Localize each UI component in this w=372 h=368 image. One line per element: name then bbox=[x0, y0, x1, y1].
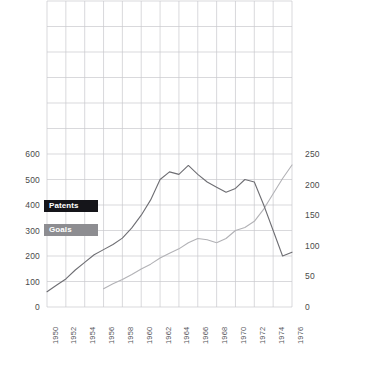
x-axis-tick-1954: 1954 bbox=[88, 327, 97, 345]
right-axis-tick-100: 100 bbox=[305, 242, 320, 251]
legend-item-patents[interactable]: Patents bbox=[44, 200, 98, 212]
left-axis-tick-600: 600 bbox=[8, 150, 40, 159]
x-axis-tick-1958: 1958 bbox=[126, 327, 135, 345]
legend-item-goals[interactable]: Goals bbox=[44, 224, 98, 236]
left-axis-tick-0: 0 bbox=[8, 303, 40, 312]
horizontal-gridlines bbox=[47, 1, 292, 307]
x-axis-tick-1964: 1964 bbox=[182, 327, 191, 345]
right-axis-tick-50: 50 bbox=[305, 272, 315, 281]
left-axis-tick-500: 500 bbox=[8, 176, 40, 185]
legend-label-goals: Goals bbox=[49, 226, 72, 234]
x-axis-tick-1960: 1960 bbox=[145, 327, 154, 345]
x-axis-tick-1974: 1974 bbox=[277, 327, 286, 345]
x-axis-tick-1972: 1972 bbox=[258, 327, 267, 345]
left-axis-tick-200: 200 bbox=[8, 252, 40, 261]
x-axis-tick-1966: 1966 bbox=[201, 327, 210, 345]
x-axis-tick-1956: 1956 bbox=[107, 327, 116, 345]
chart-container: 0100200300400500600 050100150200250 1950… bbox=[0, 0, 372, 368]
legend-label-patents: Patents bbox=[49, 202, 79, 210]
x-axis-tick-1950: 1950 bbox=[51, 327, 60, 345]
right-axis-tick-0: 0 bbox=[305, 303, 310, 312]
left-axis-tick-400: 400 bbox=[8, 201, 40, 210]
right-axis-tick-150: 150 bbox=[305, 211, 320, 220]
x-axis-tick-1968: 1968 bbox=[220, 327, 229, 345]
right-axis-tick-200: 200 bbox=[305, 181, 320, 190]
left-axis-tick-100: 100 bbox=[8, 278, 40, 287]
right-axis-tick-250: 250 bbox=[305, 150, 320, 159]
x-axis-tick-1976: 1976 bbox=[296, 327, 305, 345]
x-axis-tick-1952: 1952 bbox=[69, 327, 78, 345]
left-axis-tick-300: 300 bbox=[8, 227, 40, 236]
x-axis-tick-1970: 1970 bbox=[239, 327, 248, 345]
x-axis-tick-1962: 1962 bbox=[164, 327, 173, 345]
